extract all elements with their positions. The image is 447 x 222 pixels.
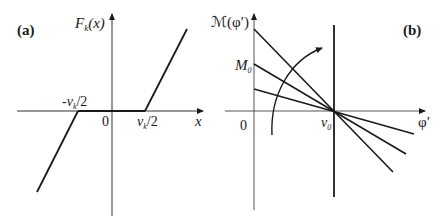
panel-a-right-ramp	[145, 29, 187, 111]
panel-b-mid-line	[254, 64, 406, 154]
panel-b-intercept-label: M0	[234, 57, 252, 75]
panel-a-left-ramp	[37, 111, 78, 192]
panel-b-tag: (b)	[403, 22, 421, 39]
panel-a-x-axis-label: x	[194, 113, 202, 129]
panel-a-y-axis-label: Fk(x)	[74, 15, 105, 33]
panel-b: ℳ(φ′) M0 0 ν0 φ′ (b)	[211, 14, 430, 210]
panel-b-pivot-label: ν0	[321, 115, 331, 132]
panel-b-y-axis-label: ℳ(φ′)	[211, 14, 249, 31]
panel-b-origin-label: 0	[240, 118, 247, 133]
panel-a-pos-threshold-label: vk/2	[137, 114, 158, 131]
panel-b-steep-line	[254, 29, 393, 172]
panel-a-neg-threshold-label: -vk/2	[62, 94, 87, 111]
panel-a-origin-label: 0	[102, 114, 109, 129]
figure-canvas: (a) Fk(x) -vk/2 0 vk/2 x ℳ(φ′) M0 0 ν0 φ…	[0, 0, 447, 222]
panel-b-x-axis-label: φ′	[418, 114, 430, 130]
panel-a-tag: (a)	[17, 22, 35, 39]
panel-a: (a) Fk(x) -vk/2 0 vk/2 x	[17, 14, 203, 216]
